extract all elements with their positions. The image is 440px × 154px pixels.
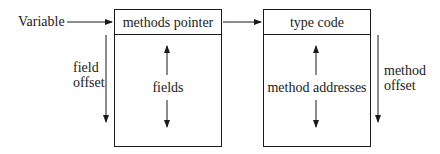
type-code-label: type code bbox=[264, 15, 370, 30]
method-addresses-label: method addresses bbox=[264, 80, 370, 95]
method-offset-label-line2: offset bbox=[384, 78, 416, 93]
field-offset-label-line2: offset bbox=[73, 75, 105, 90]
methods-pointer-label: methods pointer bbox=[115, 15, 221, 30]
field-offset-label-line1: field bbox=[73, 60, 99, 75]
variable-label: Variable bbox=[18, 14, 65, 29]
fields-label: fields bbox=[115, 80, 221, 95]
method-table-box bbox=[264, 10, 371, 147]
object-box bbox=[115, 10, 222, 147]
method-offset-label-line1: method bbox=[384, 63, 426, 78]
